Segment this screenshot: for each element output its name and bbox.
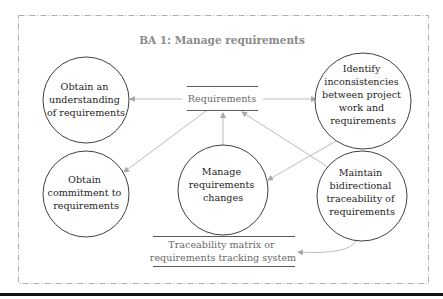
process-changes: Manage requirements changes [178,145,268,235]
datastore-label-line: Traceability matrix or [168,239,275,250]
process-inconsistencies: Identify inconsistencies between project… [315,53,411,149]
datastore-label: Requirements [188,93,256,104]
datastore-requirements: Requirements [187,87,258,111]
process-label-line: requirements [189,179,255,190]
datastore-tracking: Traceability matrix or requirements trac… [150,237,296,267]
process-label-line: work and [339,102,384,113]
svg-text:Traceability matrix or r: Traceability matrix or requirements trac… [150,239,296,263]
process-label-line: Obtain [68,174,101,185]
process-label-line: Maintain [339,167,383,178]
process-label-line: requirements [53,200,119,211]
process-label-line: traceability of [327,193,396,204]
process-traceability: Maintain bidirectional traceability of r… [317,151,407,241]
diagram-canvas: BA 1: Manage requirements Obtain an unde… [0,0,443,299]
process-label-line: requirements [329,206,395,217]
process-label-line: of requirements [47,107,125,118]
process-label-line: commitment to [48,187,122,198]
bottom-rule [0,293,443,296]
process-label-line: between project [322,89,401,100]
process-label-line: inconsistencies [324,76,398,87]
process-label-line: changes [203,192,243,203]
process-label-line: requirements [330,115,396,126]
process-label-line: Obtain an [61,81,109,92]
process-label-line: understanding [49,94,120,105]
process-label-line: Manage [202,166,242,177]
process-commitment: Obtain commitment to requirements [43,151,129,237]
process-label-line: Identify [343,63,381,74]
datastore-label-line: requirements tracking system [150,252,296,263]
process-label-line: bidirectional [330,180,392,191]
diagram-title: BA 1: Manage requirements [139,34,305,46]
flow-arrow-to-tracking-store [298,241,356,253]
process-understand: Obtain an understanding of requirements [43,57,129,143]
